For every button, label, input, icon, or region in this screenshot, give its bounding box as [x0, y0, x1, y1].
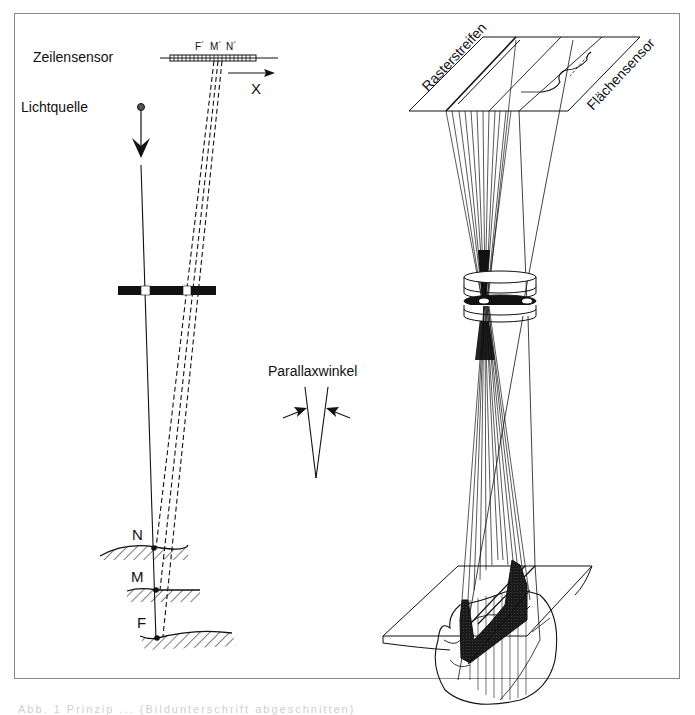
line-sensor: [160, 55, 278, 61]
parallax-diagram: Parallaxwinkel: [268, 363, 357, 478]
light-source-label: Lichtquelle: [21, 99, 88, 115]
lens-stack: [464, 271, 536, 322]
tooth-object: [435, 591, 556, 705]
x-direction-arrow-icon: [228, 69, 275, 77]
sensor-point-n: N´: [226, 41, 237, 52]
aperture-plate: [118, 286, 216, 295]
surface-m: [127, 587, 200, 602]
area-sensor-label: Flächensensor: [583, 35, 658, 113]
figure-caption: Abb. 1 Prinzip ... (Bildunterschrift abg…: [18, 703, 678, 715]
parallax-arrow-left-icon: [283, 407, 307, 418]
parallax-arrow-right-icon: [326, 407, 350, 418]
sensor-point-f: F´: [195, 41, 204, 52]
surface-n: [100, 545, 188, 560]
left-diagram: Zeilensensor F´ M´ N´: [21, 41, 278, 650]
light-source-icon: [138, 104, 145, 111]
surface-point-n-label: N: [132, 526, 143, 543]
profile-section: [460, 560, 527, 663]
sensor-point-m: M´: [210, 41, 222, 52]
surface-point-m-label: M: [131, 568, 144, 585]
surface-point-f-label: F: [137, 614, 146, 631]
right-diagram: [383, 37, 640, 704]
raster-rays-lower: [462, 306, 530, 600]
parallax-angle-label: Parallaxwinkel: [268, 363, 357, 379]
x-axis-label: X: [251, 80, 261, 97]
surface-f: [140, 631, 236, 650]
line-sensor-label: Zeilensensor: [33, 49, 113, 65]
